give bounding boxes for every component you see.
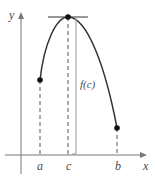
fc-label: f(c) (80, 78, 96, 91)
tick-label-c: c (66, 159, 72, 173)
tick-label-b: b (115, 159, 121, 173)
point-a (37, 77, 43, 83)
function-curve (40, 17, 117, 128)
point-c (65, 14, 71, 20)
y-axis-arrow-icon (18, 12, 24, 19)
y-axis-label: y (8, 8, 15, 22)
extreme-value-diagram: y x f(c) a c b (0, 0, 156, 181)
x-axis-arrow-icon (140, 152, 147, 158)
x-axis-label: x (142, 159, 149, 173)
tick-label-a: a (37, 159, 43, 173)
point-b (114, 125, 120, 131)
